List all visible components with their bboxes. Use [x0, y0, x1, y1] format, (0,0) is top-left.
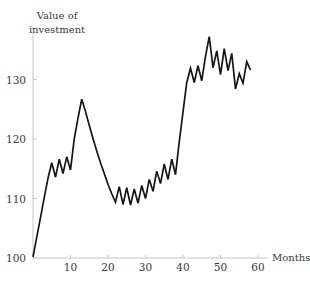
- y-tick-label: 130: [6, 74, 26, 86]
- y-tick-label: 110: [6, 193, 26, 205]
- y-tick-label: 120: [6, 133, 26, 145]
- x-axis-title: Months: [272, 252, 310, 263]
- x-tick-label: 10: [64, 261, 77, 273]
- x-tick-label: 30: [139, 261, 152, 273]
- x-axis-ticks: [71, 255, 259, 259]
- investment-value-line: [33, 37, 251, 257]
- x-tick-label: 40: [176, 261, 189, 273]
- chart-plot-area: 102030405060 100110120130 Months: [0, 0, 310, 291]
- y-tick-label: 100: [6, 252, 26, 264]
- x-tick-label: 60: [251, 261, 264, 273]
- y-axis-tick-labels: 100110120130: [6, 74, 26, 265]
- x-tick-label: 50: [214, 261, 227, 273]
- y-axis-ticks: [33, 80, 37, 259]
- x-tick-label: 20: [101, 261, 114, 273]
- x-axis-tick-labels: 102030405060: [64, 261, 265, 273]
- investment-value-chart: Value of investment 102030405060 1001101…: [0, 0, 310, 291]
